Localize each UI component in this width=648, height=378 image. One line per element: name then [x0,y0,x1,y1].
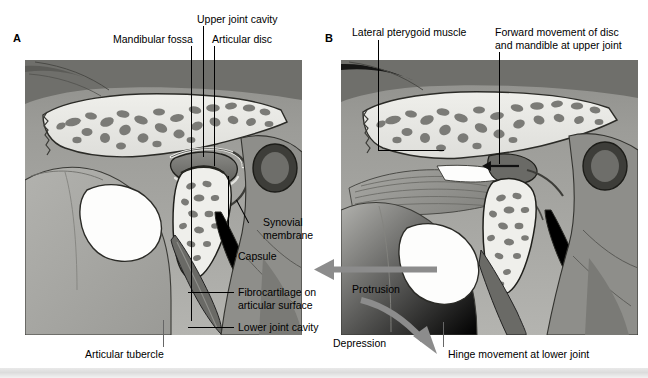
label-fibrocartilage: Fibrocartilage on articular surface [238,286,316,311]
label-depression: Depression [333,337,386,350]
leader-articular-disc [214,46,215,166]
leader-lower-joint-cavity [188,327,234,328]
leader-mandibular-fossa [191,46,192,321]
label-lower-joint-cavity: Lower joint cavity [238,321,319,334]
label-articular-disc: Articular disc [212,33,272,46]
leader-lateral-pterygoid-vertical [378,40,379,150]
label-synovial-membrane: Synovial membrane [263,216,313,241]
panel-letter-a: A [13,32,21,44]
anatomy-figure: A B [0,0,648,378]
page-bottom-band [0,368,648,378]
leader-upper-joint-cavity [203,26,204,157]
label-lateral-pterygoid-muscle: Lateral pterygoid muscle [352,26,466,39]
leader-fibrocartilage [188,292,234,293]
label-upper-joint-cavity: Upper joint cavity [197,13,278,26]
label-articular-tubercle: Articular tubercle [85,348,164,361]
leader-articular-tubercle [163,320,164,347]
label-protrusion: Protrusion [352,283,400,296]
label-capsule: Capsule [238,250,277,263]
leader-forward-movement [499,52,500,164]
panel-letter-b: B [325,32,333,44]
leader-capsule-horizontal [228,256,236,257]
leader-lateral-pterygoid-horizontal [378,150,444,151]
protrusion-arrow-icon [312,258,437,282]
label-forward-movement: Forward movement of disc and mandible at… [495,26,622,51]
label-mandibular-fossa: Mandibular fossa [113,33,193,46]
leader-capsule-vertical [228,176,229,256]
label-hinge-movement: Hinge movement at lower joint [448,348,589,361]
